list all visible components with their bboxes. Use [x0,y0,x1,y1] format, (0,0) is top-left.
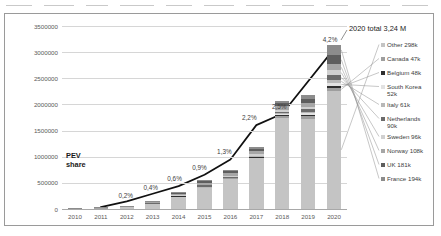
bar-segment [145,204,160,209]
legend-item[interactable]: Italy 61k [381,101,439,108]
x-axis-tick-label: 2012 [120,212,134,222]
legend-item[interactable]: France 194k [381,175,439,182]
legend-label: Netherlands 90k [387,115,420,130]
bar-segment [94,207,109,208]
bar-segment [249,156,264,157]
bar-segment [171,194,186,195]
legend-swatch [381,149,385,153]
legend-swatch [381,57,385,61]
bar-segment [197,183,212,185]
legend-label: Canada 47k [387,55,420,62]
x-axis-tick-label: 2018 [275,212,289,222]
pev-share-data-label: 4,2% [323,36,338,44]
bar-segment [301,95,316,98]
bar-segment [249,147,264,149]
bar-2011 [94,208,109,209]
bar-segment [327,91,342,209]
bar-segment [223,178,238,179]
plot-area: 0,2%0,4%0,6%0,9%1,3%2,2%2,5%4,2% [62,26,347,209]
bar-segment [249,149,264,151]
pev-share-data-label: 0,2% [118,192,133,200]
x-axis-tick-label: 2017 [249,212,263,222]
bar-segment [327,55,342,64]
x-axis-tick-label: 2014 [172,212,186,222]
legend-item[interactable]: Canada 47k [381,55,439,62]
x-axis-tick-label: 2011 [94,212,107,222]
legend-swatch [381,177,385,181]
y-axis-tick-label: 2500000 [0,74,58,83]
bar-segment [327,64,342,70]
pev-share-data-label: 0,9% [192,164,207,172]
legend-label: UK 181k [387,161,411,168]
y-axis-tick: 1000000 [0,152,58,161]
bar-segment [249,157,264,158]
y-axis-tick: 2500000 [0,74,58,83]
legend-label: Other 298k [387,41,418,48]
bar-segment [197,181,212,182]
legend-swatch [381,43,385,47]
bar-segment [301,116,316,119]
y-axis-tick-label: 1500000 [0,126,58,135]
bar-segment [171,193,186,194]
bar-segment [327,75,342,80]
y-axis-tick-label: 3000000 [0,48,58,57]
bar-segment [197,180,212,181]
pev-share-data-label: 1,3% [217,148,232,156]
y-axis-tick: 0 [0,205,58,214]
x-axis-tick-label: 2015 [198,212,212,222]
legend-label: Belgium 48k [387,69,421,76]
bar-segment [301,107,316,109]
bar-2018 [275,101,290,209]
bar-segment [68,208,83,209]
y-axis-tick-label: 500000 [0,178,58,187]
bar-segment [223,173,238,176]
bar-segment [120,207,135,209]
bar-segment [327,86,342,89]
bar-segment [301,119,316,209]
bar-segment [301,109,316,113]
legend-item[interactable]: UK 181k [381,161,439,168]
bar-segment [197,188,212,209]
gridline [62,52,347,53]
bar-segment [327,83,342,86]
bar-2012 [120,206,135,209]
pev-share-annotation: PEV share [66,152,86,169]
bar-segment [327,80,342,83]
bar-segment [301,115,316,116]
bar-2013 [145,201,160,209]
bar-2019 [301,95,316,209]
bar-segment [223,171,238,173]
bar-segment [120,206,135,207]
legend-item[interactable]: South Korea 52k [381,83,439,98]
pev-share-data-label: 0,6% [167,175,182,183]
legend-item[interactable]: Netherlands 90k [381,115,439,130]
pev-share-data-label: 2,2% [242,114,257,122]
legend-item[interactable]: Belgium 48k [381,69,439,76]
x-axis-tick-label: 2013 [146,212,160,222]
legend-item[interactable]: Other 298k [381,41,439,48]
legend-label: Sweden 96k [387,133,421,140]
bar-segment [197,185,212,187]
bar-segment [171,195,186,196]
bar-2016 [223,170,238,209]
bar-segment [223,179,238,209]
legend-item[interactable]: Sweden 96k [381,133,439,140]
bar-segment [145,203,160,204]
y-axis-tick: 1500000 [0,126,58,135]
x-axis: 2010201120122013201420152016201720182019… [62,212,347,224]
gridline [62,26,347,27]
y-axis: 0500000100000015000002000000250000030000… [0,26,60,209]
legend-label: France 194k [387,175,421,182]
pev-share-data-label: 2,5% [272,103,287,111]
bar-2015 [197,180,212,209]
gridline [62,78,347,79]
chart-container: 0500000100000015000002000000250000030000… [0,0,441,236]
bar-segment [275,112,290,113]
x-axis-tick-label: 2020 [327,212,341,222]
legend-swatch [381,163,385,167]
bar-segment [301,103,316,107]
bar-segment [223,176,238,177]
legend-item[interactable]: Norway 108k [381,147,439,154]
y-axis-tick: 3000000 [0,48,58,57]
bar-segment [145,201,160,202]
